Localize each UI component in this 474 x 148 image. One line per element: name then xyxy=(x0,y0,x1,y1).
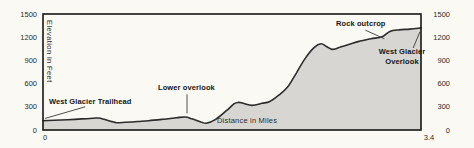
y-tick-left-900: 900 xyxy=(13,56,37,65)
y-tick-right-900: 900 xyxy=(426,56,450,65)
elevation-profile-figure: Elevation in Feet Distance in Miles West… xyxy=(0,0,474,148)
y-tick-right-300: 300 xyxy=(426,102,450,111)
x-tick-0: 0 xyxy=(33,133,57,142)
y-tick-left-1500: 1500 xyxy=(13,10,37,19)
y-tick-left-300: 300 xyxy=(13,102,37,111)
y-tick-left-1200: 1200 xyxy=(13,33,37,42)
x-axis-title: Distance in Miles xyxy=(217,116,277,125)
y-axis-title: Elevation in Feet xyxy=(45,20,54,83)
annotation-lower-overlook: Lower overlook xyxy=(158,83,215,92)
annotation-rock-outcrop: Rock outcrop xyxy=(336,19,386,28)
annotation-pointer-0 xyxy=(45,107,85,119)
y-tick-right-600: 600 xyxy=(426,79,450,88)
y-tick-right-1200: 1200 xyxy=(426,33,450,42)
y-tick-left-600: 600 xyxy=(13,79,37,88)
annotation-west-glacier-trailhead: West Glacier Trailhead xyxy=(49,97,132,106)
y-tick-right-1500: 1500 xyxy=(426,10,450,19)
annotation-west-glacier-overlook: West Glacier Overlook xyxy=(375,47,429,67)
x-tick-3.4: 3.4 xyxy=(417,133,441,142)
elevation-chart-canvas xyxy=(0,0,474,148)
elevation-area-fill xyxy=(43,28,421,130)
